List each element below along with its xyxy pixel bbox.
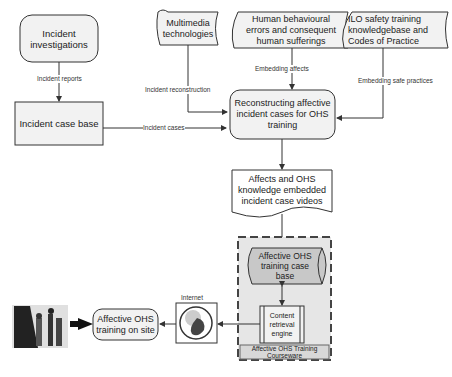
internet-label: Internet xyxy=(181,294,203,302)
videos-label: Affects and OHS knowledge embedded incid… xyxy=(232,170,332,210)
incident-case-base-label: Incident case base xyxy=(15,102,103,145)
training-case-base-label: Affective OHS training case base xyxy=(250,248,320,284)
edge-embedding-affects: Embedding affects xyxy=(255,65,309,73)
edge-embedding-safe-practices: Embedding safe practices xyxy=(358,77,433,85)
incident-investigations-label: Incident investigations xyxy=(20,15,98,62)
courseware-label: Affective OHS Training Courseware xyxy=(240,345,329,359)
human-errors-label: Human behavioural errors and consequent … xyxy=(234,12,348,48)
edge-incident-cases: Incident cases xyxy=(143,124,185,132)
edge-incident-reports: Incident reports xyxy=(37,75,82,83)
reconstructing-label: Reconstructing affective incident cases … xyxy=(230,90,335,139)
site-photo xyxy=(12,305,68,348)
retrieval-engine-label: Content retrieval engine xyxy=(264,306,300,343)
training-on-site-label: Affective OHS training on site xyxy=(93,309,158,340)
multimedia-label: Multimedia technologies xyxy=(158,12,218,45)
ilo-label: ILO safety training knowledgebase and Co… xyxy=(348,12,448,48)
edge-incident-reconstruction: Incident reconstruction xyxy=(145,86,210,94)
